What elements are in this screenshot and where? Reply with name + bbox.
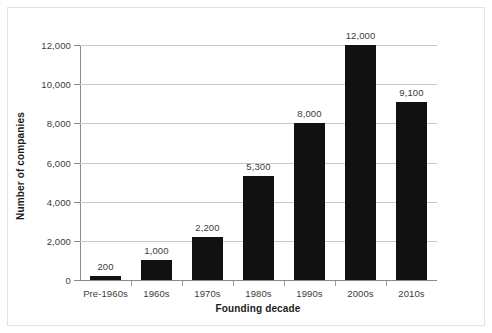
y-tick-mark xyxy=(74,84,80,85)
x-tick-label: 1960s xyxy=(143,288,169,299)
y-tick-mark xyxy=(74,241,80,242)
bar-value-label: 2,200 xyxy=(195,222,219,233)
x-tick-mark xyxy=(386,281,387,286)
bar[interactable] xyxy=(90,276,121,280)
y-tick-label: 0 xyxy=(9,275,71,286)
bar[interactable] xyxy=(294,123,325,280)
x-tick-mark xyxy=(284,281,285,286)
y-tick-mark xyxy=(74,280,80,281)
x-tick-label: 2000s xyxy=(347,288,373,299)
bar[interactable] xyxy=(396,102,427,280)
bar[interactable] xyxy=(141,260,172,280)
x-tick-label: 1980s xyxy=(245,288,271,299)
bar-value-label: 5,300 xyxy=(246,161,270,172)
y-tick-mark xyxy=(74,45,80,46)
x-tick-label: 1990s xyxy=(296,288,322,299)
x-tick-mark xyxy=(335,281,336,286)
bar-value-label: 200 xyxy=(97,261,113,272)
x-axis-title: Founding decade xyxy=(215,303,300,314)
y-tick-label: 10,000 xyxy=(9,79,71,90)
x-tick-mark xyxy=(233,281,234,286)
x-tick-mark xyxy=(182,281,183,286)
y-tick-mark xyxy=(74,202,80,203)
gridline xyxy=(80,84,437,85)
x-axis-baseline xyxy=(80,280,437,281)
gridline xyxy=(80,45,437,46)
x-tick-label: 1970s xyxy=(194,288,220,299)
y-tick-label: 12,000 xyxy=(9,40,71,51)
y-axis-title: Number of companies xyxy=(15,112,26,220)
y-tick-mark xyxy=(74,163,80,164)
y-tick-labels: 02,0004,0006,0008,00010,00012,000 xyxy=(0,0,71,333)
gridline xyxy=(80,123,437,124)
bar[interactable] xyxy=(243,176,274,280)
bar-value-label: 12,000 xyxy=(346,30,376,41)
x-tick-mark xyxy=(131,281,132,286)
bar-value-label: 8,000 xyxy=(297,108,321,119)
y-tick-mark xyxy=(74,123,80,124)
bar[interactable] xyxy=(345,45,376,280)
y-tick-label: 2,000 xyxy=(9,235,71,246)
bar[interactable] xyxy=(192,237,223,280)
x-tick-label: 2010s xyxy=(398,288,424,299)
bar-value-label: 1,000 xyxy=(144,245,168,256)
bar-value-label: 9,100 xyxy=(399,87,423,98)
x-tick-label: Pre-1960s xyxy=(83,288,128,299)
chart-figure: 02,0004,0006,0008,00010,00012,000 Pre-19… xyxy=(0,0,492,333)
